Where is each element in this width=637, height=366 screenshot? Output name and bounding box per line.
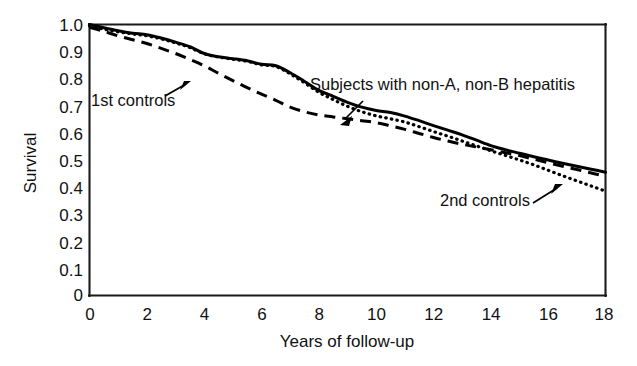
y-tick-label: 0.1 [59,261,83,280]
annotation-second-controls-label: 2nd controls [440,191,530,209]
y-tick-label: 0.2 [59,234,83,253]
annotation-subjects-label: Subjects with non-A, non-B hepatitis [310,75,575,93]
y-axis-title: Survival [21,133,40,193]
survival-chart: 1.0 0.9 0.8 0.7 0.6 0.5 0.4 0.3 0.2 0.1 … [0,0,637,366]
survival-chart-figure: 1.0 0.9 0.8 0.7 0.6 0.5 0.4 0.3 0.2 0.1 … [0,0,637,366]
x-tick-label: 16 [539,305,558,324]
x-tick-label: 4 [200,305,209,324]
y-tick-label: 0.3 [59,206,83,225]
annotation-first-controls-label: 1st controls [91,91,175,109]
y-tick-label: 0.4 [59,179,83,198]
annotation-first-controls-arrowhead [180,81,191,90]
x-tick-label: 12 [424,305,443,324]
y-tick-label: 0.5 [59,152,83,171]
y-tick-label: 0.7 [59,98,83,117]
annotation-second-controls-arrowhead [551,184,563,194]
y-tick-label: 0.8 [59,70,83,89]
x-tick-label: 18 [595,305,614,324]
x-tick-label: 0 [85,305,94,324]
x-tick-label: 10 [367,305,386,324]
y-tick-label: 0.9 [59,43,83,62]
y-tick-label: 1.0 [59,16,83,35]
annotation-subjects: Subjects with non-A, non-B hepatitis [310,75,575,126]
annotation-first-controls: 1st controls [91,81,191,109]
x-tick-label: 6 [257,305,266,324]
x-axis-title: Years of follow-up [280,332,415,351]
x-tick-label: 2 [143,305,152,324]
x-tick-label: 8 [314,305,323,324]
annotation-second-controls: 2nd controls [440,184,563,209]
y-tick-label: 0.6 [59,125,83,144]
y-axis-tick-labels: 1.0 0.9 0.8 0.7 0.6 0.5 0.4 0.3 0.2 0.1 … [59,16,83,305]
x-tick-label: 14 [482,305,501,324]
y-tick-label: 0 [74,286,83,305]
plot-axes [89,24,606,296]
x-axis-tick-labels: 0 2 4 6 8 10 12 14 16 18 [85,305,613,324]
